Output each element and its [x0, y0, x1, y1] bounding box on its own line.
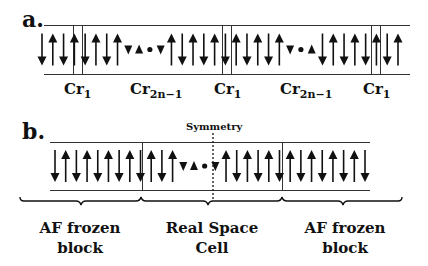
spin-down-arrow-icon	[136, 150, 145, 182]
spin-up-arrow-icon	[135, 45, 143, 54]
spin-up-arrow-icon	[190, 161, 198, 170]
spin-up-arrow-icon	[61, 150, 70, 182]
spin-down-arrow-icon	[254, 150, 263, 182]
spin-down-arrow-icon	[264, 34, 273, 66]
spin-up-arrow-icon	[328, 150, 337, 182]
spin-up-arrow-icon	[394, 34, 403, 66]
spin-down-arrow-icon	[340, 34, 349, 66]
spin-down-arrow-icon	[361, 34, 370, 66]
spin-up-arrow-icon	[232, 34, 241, 66]
spin-down-arrow-icon	[59, 34, 68, 66]
spin-node-icon	[202, 163, 207, 168]
spin-down-arrow-icon	[318, 34, 327, 66]
spin-up-arrow-icon	[350, 34, 359, 66]
spin-up-arrow-icon	[147, 150, 156, 182]
spin-down-arrow-icon	[221, 34, 230, 66]
spin-down-arrow-icon	[286, 46, 294, 55]
spin-up-arrow-icon	[168, 150, 177, 182]
spin-up-arrow-icon	[286, 150, 295, 182]
spin-down-arrow-icon	[178, 34, 187, 66]
spin-down-arrow-icon	[296, 150, 305, 182]
spin-up-arrow-icon	[222, 150, 231, 182]
spin-down-arrow-icon	[383, 34, 392, 66]
spin-arrows-panel-a	[38, 34, 403, 66]
spin-down-arrow-icon	[157, 46, 165, 55]
spin-up-arrow-icon	[372, 34, 381, 66]
spin-down-arrow-icon	[361, 150, 370, 182]
spin-node-icon	[147, 47, 152, 52]
spin-down-arrow-icon	[179, 162, 187, 171]
spin-down-arrow-icon	[157, 150, 166, 182]
spin-up-arrow-icon	[307, 150, 316, 182]
brace-af-frozen-right	[282, 197, 402, 205]
spin-down-arrow-icon	[275, 150, 284, 182]
spin-up-arrow-icon	[308, 45, 316, 54]
spin-up-arrow-icon	[243, 150, 252, 182]
spin-down-arrow-icon	[81, 34, 90, 66]
spin-up-arrow-icon	[275, 34, 284, 66]
spin-up-arrow-icon	[125, 150, 134, 182]
spin-down-arrow-icon	[51, 150, 60, 182]
brace-real-space-cell	[141, 197, 282, 205]
spin-down-arrow-icon	[339, 150, 348, 182]
spin-up-arrow-icon	[70, 34, 79, 66]
spin-up-arrow-icon	[113, 34, 122, 66]
spin-node-icon	[298, 47, 303, 52]
spin-up-arrow-icon	[350, 150, 359, 182]
spin-arrows-panel-b	[51, 150, 370, 182]
spin-down-arrow-icon	[318, 150, 327, 182]
spin-down-arrow-icon	[199, 34, 208, 66]
spin-up-arrow-icon	[83, 150, 92, 182]
spin-down-arrow-icon	[102, 34, 111, 66]
spin-up-arrow-icon	[167, 34, 176, 66]
spin-down-arrow-icon	[232, 150, 241, 182]
spin-down-arrow-icon	[115, 150, 124, 182]
spin-up-arrow-icon	[189, 34, 198, 66]
spin-up-arrow-icon	[329, 34, 338, 66]
spin-up-arrow-icon	[210, 34, 219, 66]
spin-diagram	[0, 0, 428, 266]
spin-down-arrow-icon	[124, 46, 132, 55]
spin-down-arrow-icon	[72, 150, 81, 182]
spin-up-arrow-icon	[104, 150, 113, 182]
spin-up-arrow-icon	[91, 34, 100, 66]
spin-up-arrow-icon	[48, 34, 57, 66]
brace-af-frozen-left	[20, 197, 141, 205]
spin-down-arrow-icon	[38, 34, 47, 66]
spin-up-arrow-icon	[253, 34, 262, 66]
spin-down-arrow-icon	[93, 150, 102, 182]
spin-down-arrow-icon	[242, 34, 251, 66]
spin-up-arrow-icon	[264, 150, 273, 182]
